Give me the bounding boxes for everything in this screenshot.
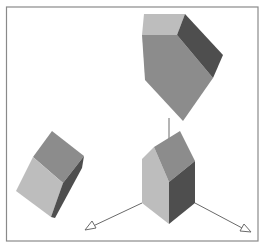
diagram-canvas: [0, 0, 264, 248]
